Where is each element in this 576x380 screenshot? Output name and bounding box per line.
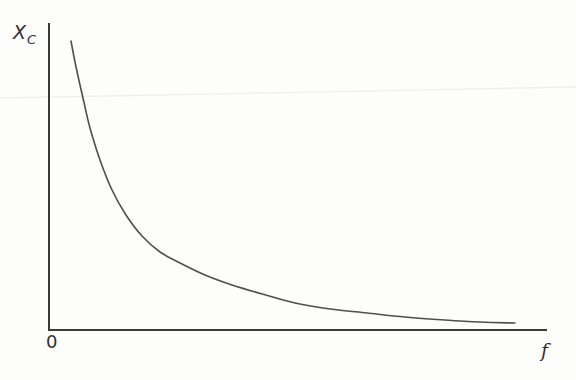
y-axis-label-main: X bbox=[13, 21, 26, 43]
plot-area bbox=[0, 0, 576, 380]
y-axis-label: XC bbox=[13, 23, 36, 46]
y-axis-label-subscript: C bbox=[27, 32, 36, 47]
origin-label: 0 bbox=[46, 333, 57, 351]
reactance-vs-frequency-chart: XC 0 f bbox=[0, 0, 576, 380]
x-axis-label: f bbox=[541, 341, 548, 360]
